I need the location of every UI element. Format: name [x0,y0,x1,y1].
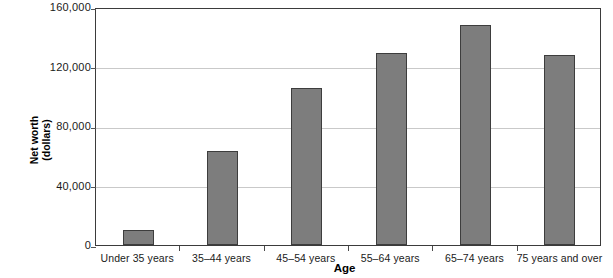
x-axis-tick-label: 45–54 years [264,252,348,264]
x-axis-tick-label: 65–74 years [432,252,516,264]
gridline [96,128,600,129]
x-axis-tick-mark [179,246,180,251]
y-axis-tick-mark [91,128,96,129]
bar [460,25,491,245]
bar [123,230,154,245]
y-axis-tick-mark [91,247,96,248]
x-axis-tick-label: Under 35 years [95,252,179,264]
y-axis-tick-label: 160,000 [5,1,91,13]
plot-area [95,8,601,246]
y-axis-tick-mark [91,68,96,69]
x-axis-tick-mark [264,246,265,251]
y-axis-tick-label: 40,000 [5,180,91,192]
bar-chart: Net worth (dollars) 040,00080,000120,000… [0,0,613,278]
x-axis-tick-mark [517,246,518,251]
y-axis-tick-label: 80,000 [5,120,91,132]
x-axis-tick-label: 35–44 years [179,252,263,264]
bar [291,88,322,245]
x-axis-tick-label: 55–64 years [348,252,432,264]
x-axis-tick-mark [432,246,433,251]
bar [544,55,575,245]
y-axis-tick-label: 0 [5,239,91,251]
x-axis-tick-mark [348,246,349,251]
gridline [96,187,600,188]
y-axis-tick-mark [91,9,96,10]
y-axis-tick-labels: 040,00080,000120,000160,000 [0,0,91,278]
y-axis-tick-mark [91,187,96,188]
x-axis-tick-label: 75 years and over [517,252,601,264]
bar [376,53,407,245]
bar [207,151,238,245]
y-axis-tick-label: 120,000 [5,61,91,73]
gridline [96,68,600,69]
